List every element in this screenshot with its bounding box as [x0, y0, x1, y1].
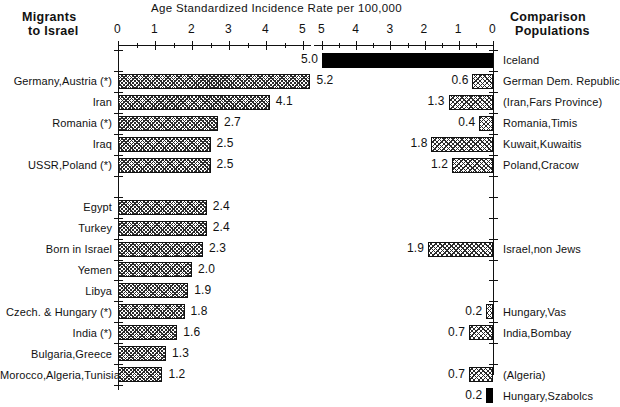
bar-value-label-left: 1.6: [183, 326, 200, 338]
table-row-bar-left: [118, 74, 310, 89]
category-label-left: Turkey: [0, 222, 112, 234]
bar-value-label-right: 5.0: [294, 53, 318, 65]
right-panel-header-line1: Comparison: [510, 10, 586, 24]
right-spine-tick: [489, 197, 498, 198]
left-spine-tick: [114, 280, 123, 281]
bar-value-label-right: 0.2: [458, 305, 482, 317]
left-tick-label: 4: [262, 23, 269, 35]
right-tick-minor: [373, 43, 374, 48]
left-spine-tick: [114, 301, 123, 302]
right-tick-major: [322, 41, 323, 50]
left-spine-tick: [114, 50, 123, 51]
right-tick-minor: [476, 43, 477, 48]
bar-value-label-left: 1.2: [168, 368, 185, 380]
bar-value-label-left: 1.8: [191, 305, 208, 317]
left-spine-tick: [114, 92, 123, 93]
category-label-right: Poland,Cracow: [503, 159, 579, 171]
right-spine-tick: [489, 134, 498, 135]
bar-value-label-right: 0.6: [444, 74, 468, 86]
category-label-left: Iraq: [0, 138, 112, 150]
right-spine-tick: [489, 239, 498, 240]
left-spine-tick: [114, 176, 123, 177]
table-row-bar-left: [118, 367, 162, 382]
right-tick-major: [425, 41, 426, 50]
right-spine-tick: [489, 280, 498, 281]
table-row-bar-right: [469, 367, 493, 382]
category-label-right: Iceland: [503, 54, 539, 66]
category-label-right: India,Bombay: [503, 327, 571, 339]
bar-value-label-right: 0.2: [458, 389, 482, 401]
table-row-bar-right: [431, 137, 493, 152]
category-label-right: Hungary,Szabolcs: [503, 390, 593, 402]
bar-value-label-right: 0.7: [441, 326, 465, 338]
bar-value-label-right: 1.2: [424, 158, 448, 170]
bar-value-label-left: 5.2: [316, 74, 333, 86]
category-label-right: German Dem. Republic: [503, 75, 620, 87]
left-spine-tick: [114, 322, 123, 323]
category-label-left: Libya: [0, 285, 112, 297]
left-tick-major: [118, 41, 119, 50]
table-row-bar-right: [322, 53, 493, 68]
bar-value-label-left: 2.5: [217, 158, 234, 170]
bar-value-label-left: 4.1: [276, 95, 293, 107]
category-label-left: India (*): [0, 327, 112, 339]
left-panel-header-line1: Migrants: [22, 10, 77, 24]
table-row-bar-left: [118, 95, 270, 110]
left-spine-tick: [114, 239, 123, 240]
right-tick-label: 1: [455, 23, 462, 35]
right-spine-tick: [489, 155, 498, 156]
table-row-bar-right: [449, 95, 493, 110]
left-tick-minor: [285, 43, 286, 48]
left-spine-tick: [114, 113, 123, 114]
category-label-left: USSR,Poland (*): [0, 159, 112, 171]
table-row-bar-left: [118, 325, 177, 340]
right-tick-major: [390, 41, 391, 50]
bar-value-label-left: 2.7: [224, 116, 241, 128]
left-tick-minor: [248, 43, 249, 48]
right-spine-tick: [489, 364, 498, 365]
left-spine-tick: [114, 385, 123, 386]
left-spine-tick: [114, 155, 123, 156]
bar-value-label-right: 1.3: [421, 95, 445, 107]
right-spine-tick: [489, 260, 498, 261]
right-spine-tick: [489, 50, 498, 51]
bar-value-label-right: 1.9: [400, 242, 424, 254]
category-label-left: Czech. & Hungary (*): [0, 306, 112, 318]
table-row-bar-left: [118, 221, 207, 236]
table-row-bar-right: [452, 158, 493, 173]
category-label-right: Romania,Timis: [503, 117, 577, 129]
left-tick-label: 1: [151, 23, 158, 35]
right-tick-label: 2: [421, 23, 428, 35]
right-axis-spine: [493, 45, 494, 375]
table-row-bar-right: [479, 116, 493, 131]
category-label-right: (Algeria): [503, 369, 545, 381]
right-spine-tick: [489, 113, 498, 114]
right-tick-label: 5: [318, 23, 325, 35]
bar-value-label-left: 1.9: [194, 284, 211, 296]
right-tick-label: 3: [386, 23, 393, 35]
bar-value-label-left: 2.4: [213, 200, 230, 212]
left-spine-tick: [114, 134, 123, 135]
right-tick-major: [356, 41, 357, 50]
left-tick-label: 3: [225, 23, 232, 35]
left-tick-minor: [211, 43, 212, 48]
table-row-bar-left: [118, 116, 218, 131]
right-spine-tick: [489, 71, 498, 72]
category-label-right: Hungary,Vas: [503, 306, 566, 318]
table-row-bar-right: [472, 74, 493, 89]
category-label-left: Romania (*): [0, 117, 112, 129]
right-panel-header-line2: Populations: [515, 24, 590, 38]
left-tick-label: 2: [188, 23, 195, 35]
left-tick-major: [303, 41, 304, 50]
right-tick-minor: [339, 43, 340, 48]
bar-value-label-left: 2.5: [217, 137, 234, 149]
right-spine-tick: [489, 343, 498, 344]
table-row-bar-left: [118, 283, 188, 298]
left-axis-line: [118, 45, 311, 46]
category-label-left: Yemen: [0, 264, 112, 276]
bar-value-label-left: 2.3: [209, 242, 226, 254]
left-tick-major: [155, 41, 156, 50]
left-spine-tick: [114, 260, 123, 261]
category-label-left: Bulgaria,Greece: [0, 348, 112, 360]
